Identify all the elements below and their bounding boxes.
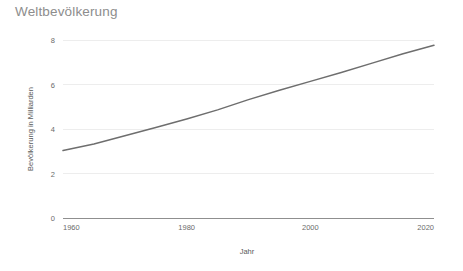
y-tick-label: 0 <box>51 214 55 223</box>
y-tick-label: 2 <box>51 170 55 179</box>
x-tick-label: 1960 <box>63 223 80 232</box>
x-tick-label: 2000 <box>302 223 319 232</box>
x-tick-label: 1980 <box>178 223 195 232</box>
data-series-group <box>63 45 434 150</box>
gridlines-group <box>63 40 434 218</box>
x-tick-label: 2020 <box>417 223 434 232</box>
x-axis-tick-labels: 1960198020002020 <box>63 223 434 232</box>
series-line <box>63 45 434 150</box>
y-tick-label: 4 <box>51 125 55 134</box>
chart-plot-area: 02468 1960198020002020 Bevölkerung in Mi… <box>0 0 463 271</box>
y-tick-label: 8 <box>51 36 55 45</box>
y-tick-label: 6 <box>51 81 55 90</box>
y-axis-title: Bevölkerung in Milliarden <box>26 87 35 171</box>
y-axis-tick-labels: 02468 <box>51 36 55 223</box>
x-axis-title: Jahr <box>240 247 255 256</box>
chart-container: Weltbevölkerung 02468 1960198020002020 B… <box>0 0 463 271</box>
